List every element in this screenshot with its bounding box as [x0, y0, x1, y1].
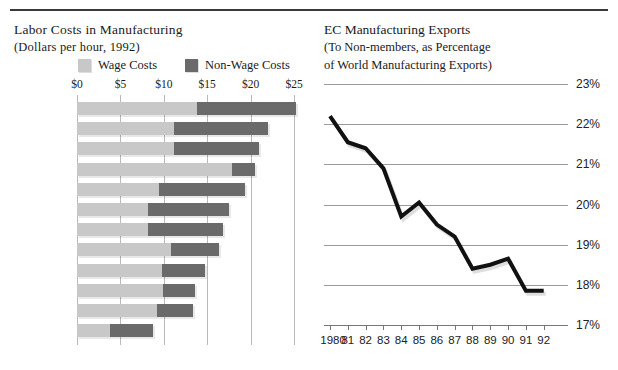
x-axis-tick-label: $5 [115, 78, 127, 90]
y-axis-tick-label: 17% [576, 318, 600, 332]
bar-segment-non-wage-costs [197, 102, 296, 115]
bar-segment-wage-costs [77, 223, 148, 236]
stacked-bar [77, 142, 259, 155]
left-chart-subtitle: (Dollars per hour, 1992) [14, 40, 140, 55]
x-axis-tick-label: 82 [359, 334, 372, 346]
x-axis-tick-label: 90 [502, 334, 515, 346]
exports-data-line [330, 116, 544, 291]
x-axis-tick-label: 86 [430, 334, 443, 346]
exports-line-svg [324, 84, 578, 335]
bar-segment-wage-costs [77, 163, 232, 176]
stacked-bar [77, 304, 193, 317]
stacked-bar [77, 183, 245, 196]
y-axis-tick-label: 19% [576, 238, 600, 252]
bar-segment-non-wage-costs [232, 163, 255, 176]
legend-label-non-wage-costs: Non-Wage Costs [205, 58, 290, 73]
x-axis-tick-label: $20 [242, 78, 259, 90]
stacked-bar [77, 163, 255, 176]
bar-segment-wage-costs [77, 102, 197, 115]
right-chart-title: EC Manufacturing Exports [324, 22, 470, 38]
y-axis-tick-label: 23% [576, 77, 600, 91]
bar-segment-non-wage-costs [174, 142, 259, 155]
bar-segment-non-wage-costs [162, 264, 205, 277]
y-axis-tick-label: 20% [576, 198, 600, 212]
legend-label-wage-costs: Wage Costs [98, 58, 157, 73]
y-axis-tick-label: 21% [576, 157, 600, 171]
bar-segment-wage-costs [77, 243, 171, 256]
x-axis-tick-label: 92 [537, 334, 550, 346]
x-axis-tick-label: 83 [377, 334, 390, 346]
stacked-bar [77, 102, 296, 115]
bar-segment-non-wage-costs [157, 304, 193, 317]
stacked-bar [77, 203, 229, 216]
x-axis-tick-label: 91 [520, 334, 533, 346]
right-chart-subtitle-line-1: (To Non-members, as Percentage [324, 40, 490, 55]
left-chart-title: Labor Costs in Manufacturing [14, 22, 183, 38]
x-axis-tick-label: $15 [199, 78, 216, 90]
bar-segment-non-wage-costs [174, 122, 268, 135]
x-axis-tick-label: 81 [341, 334, 354, 346]
right-chart-subtitle-line-2: of World Manufacturing Exports) [324, 58, 492, 73]
bar-segment-wage-costs [77, 203, 148, 216]
bar-segment-non-wage-costs [171, 243, 220, 256]
ec-exports-chart-panel: EC Manufacturing Exports (To Non-members… [310, 0, 618, 370]
x-axis-tick-label: 89 [484, 334, 497, 346]
bar-segment-wage-costs [77, 264, 162, 277]
legend-swatch-wage-costs [78, 59, 91, 72]
x-axis-tick-label: $10 [155, 78, 172, 90]
x-axis-tick-label: 87 [448, 334, 461, 346]
y-axis-tick-label: 18% [576, 278, 600, 292]
x-axis-tick-label: 88 [466, 334, 479, 346]
bar-segment-wage-costs [77, 284, 163, 297]
bar-segment-wage-costs [77, 142, 174, 155]
bar-segment-wage-costs [77, 304, 157, 317]
right-chart-plot-area: 17%18%19%20%21%22%23%1980818283848586878… [324, 84, 604, 334]
stacked-bar [77, 324, 153, 337]
stacked-bar [77, 122, 268, 135]
legend-swatch-non-wage-costs [185, 59, 198, 72]
x-axis-tick-label: 84 [395, 334, 408, 346]
bar-segment-wage-costs [77, 122, 174, 135]
bar-segment-non-wage-costs [163, 284, 195, 297]
bar-segment-wage-costs [77, 324, 110, 337]
stacked-bar [77, 264, 205, 277]
x-axis-tick-label: $0 [71, 78, 83, 90]
labor-costs-chart-panel: Labor Costs in Manufacturing (Dollars pe… [0, 0, 310, 370]
bar-segment-wage-costs [77, 183, 159, 196]
bar-segment-non-wage-costs [148, 223, 223, 236]
left-chart-legend: Wage Costs Non-Wage Costs [78, 57, 290, 73]
y-axis-tick-label: 22% [576, 117, 600, 131]
stacked-bar [77, 243, 219, 256]
stacked-bar [77, 223, 223, 236]
stacked-bar [77, 284, 195, 297]
bar-segment-non-wage-costs [110, 324, 153, 337]
bar-segment-non-wage-costs [148, 203, 229, 216]
vertical-gridline [294, 95, 295, 345]
x-axis-tick-label: 85 [413, 334, 426, 346]
x-axis-tick-label: $25 [285, 78, 302, 90]
bar-segment-non-wage-costs [159, 183, 244, 196]
